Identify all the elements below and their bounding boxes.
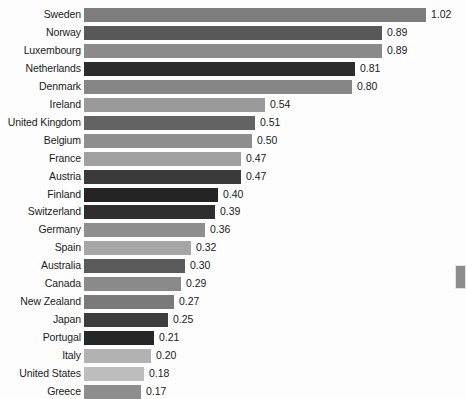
- category-label: Denmark: [0, 79, 81, 94]
- page-edge-marker: [455, 265, 466, 289]
- bar-row: Denmark0.80: [0, 80, 466, 94]
- category-label: Germany: [0, 222, 81, 237]
- bar-row: Austria0.47: [0, 170, 466, 184]
- bar: [84, 98, 265, 112]
- bar: [84, 259, 185, 273]
- category-label: France: [0, 151, 81, 166]
- bar-row: Spain0.32: [0, 241, 466, 255]
- bar: [84, 295, 174, 309]
- category-label: Norway: [0, 25, 81, 40]
- bar: [84, 205, 215, 219]
- bar-row: Portugal0.21: [0, 331, 466, 345]
- bar: [84, 313, 168, 327]
- bar-value-label: 0.47: [246, 169, 266, 184]
- bar-value-label: 0.20: [156, 348, 176, 363]
- bar: [84, 80, 352, 94]
- bar-value-label: 0.36: [210, 222, 230, 237]
- category-label: Japan: [0, 312, 81, 327]
- bar: [84, 134, 252, 148]
- bar: [84, 44, 382, 58]
- category-label: Netherlands: [0, 61, 81, 76]
- bar-value-label: 0.32: [196, 240, 216, 255]
- category-label: Italy: [0, 348, 81, 363]
- category-label: Canada: [0, 276, 81, 291]
- category-label: United States: [0, 366, 81, 381]
- bar: [84, 277, 181, 291]
- bar: [84, 241, 191, 255]
- bar-row: Germany0.36: [0, 223, 466, 237]
- bar-value-label: 0.39: [220, 204, 240, 219]
- bar-row: Canada0.29: [0, 277, 466, 291]
- bar-row: United States0.18: [0, 367, 466, 381]
- category-label: Austria: [0, 169, 81, 184]
- category-label: Luxembourg: [0, 43, 81, 58]
- bar: [84, 349, 151, 363]
- category-label: Greece: [0, 384, 81, 399]
- bar-value-label: 0.25: [173, 312, 193, 327]
- bar-value-label: 0.17: [146, 384, 166, 399]
- bar-value-label: 0.81: [360, 61, 380, 76]
- bar-row: Australia0.30: [0, 259, 466, 273]
- bar-value-label: 0.80: [357, 79, 377, 94]
- bar-row: Norway0.89: [0, 26, 466, 40]
- bar: [84, 62, 355, 76]
- bar-row: Belgium0.50: [0, 134, 466, 148]
- bar-value-label: 0.51: [260, 115, 280, 130]
- category-label: Australia: [0, 258, 81, 273]
- bar: [84, 170, 241, 184]
- bar: [84, 331, 154, 345]
- bar-value-label: 0.89: [387, 43, 407, 58]
- bar-row: Netherlands0.81: [0, 62, 466, 76]
- bar: [84, 367, 144, 381]
- bar: [84, 26, 382, 40]
- bar: [84, 152, 241, 166]
- bar-value-label: 0.47: [246, 151, 266, 166]
- bar-row: New Zealand0.27: [0, 295, 466, 309]
- bar-value-label: 0.89: [387, 25, 407, 40]
- bar-value-label: 0.40: [223, 187, 243, 202]
- bar-row: Sweden1.02: [0, 8, 466, 22]
- bar-row: Japan0.25: [0, 313, 466, 327]
- bar-value-label: 0.50: [257, 133, 277, 148]
- category-label: Sweden: [0, 7, 81, 22]
- bar-value-label: 0.29: [186, 276, 206, 291]
- category-label: Belgium: [0, 133, 81, 148]
- bar: [84, 223, 205, 237]
- bar-row: Italy0.20: [0, 349, 466, 363]
- bar-row: United Kingdom0.51: [0, 116, 466, 130]
- bar: [84, 116, 255, 130]
- bar-value-label: 0.27: [179, 294, 199, 309]
- bar: [84, 8, 426, 22]
- category-label: Finland: [0, 187, 81, 202]
- category-label: United Kingdom: [0, 115, 81, 130]
- category-label: Switzerland: [0, 204, 81, 219]
- bar-value-label: 0.21: [159, 330, 179, 345]
- category-label: Spain: [0, 240, 81, 255]
- bar-row: France0.47: [0, 152, 466, 166]
- bar-row: Ireland0.54: [0, 98, 466, 112]
- bar-row: Switzerland0.39: [0, 205, 466, 219]
- bar-row: Finland0.40: [0, 188, 466, 202]
- bar-value-label: 0.30: [190, 258, 210, 273]
- category-label: Ireland: [0, 97, 81, 112]
- category-label: New Zealand: [0, 294, 81, 309]
- bar-value-label: 1.02: [431, 7, 451, 22]
- bar-row: Luxembourg0.89: [0, 44, 466, 58]
- bar: [84, 188, 218, 202]
- bar-value-label: 0.18: [149, 366, 169, 381]
- category-label: Portugal: [0, 330, 81, 345]
- bar-row: Greece0.17: [0, 385, 466, 399]
- bar-value-label: 0.54: [270, 97, 290, 112]
- bar: [84, 385, 141, 399]
